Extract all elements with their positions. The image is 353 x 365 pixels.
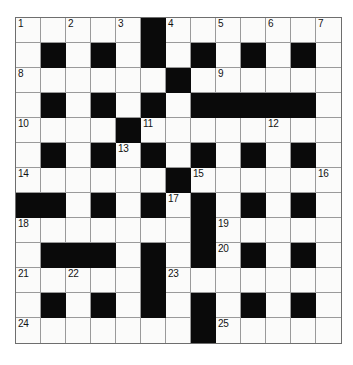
crossword-open-cell[interactable] bbox=[216, 118, 241, 143]
crossword-open-cell[interactable] bbox=[316, 243, 341, 268]
crossword-open-cell[interactable] bbox=[91, 18, 116, 43]
crossword-open-cell[interactable]: 20 bbox=[216, 243, 241, 268]
crossword-open-cell[interactable] bbox=[16, 293, 41, 318]
crossword-open-cell[interactable]: 18 bbox=[16, 218, 41, 243]
crossword-open-cell[interactable] bbox=[166, 218, 191, 243]
crossword-open-cell[interactable]: 4 bbox=[166, 18, 191, 43]
crossword-open-cell[interactable] bbox=[166, 143, 191, 168]
crossword-open-cell[interactable] bbox=[91, 68, 116, 93]
crossword-open-cell[interactable] bbox=[241, 318, 266, 343]
crossword-open-cell[interactable]: 11 bbox=[141, 118, 166, 143]
crossword-open-cell[interactable]: 25 bbox=[216, 318, 241, 343]
crossword-open-cell[interactable] bbox=[316, 293, 341, 318]
crossword-open-cell[interactable] bbox=[41, 268, 66, 293]
crossword-open-cell[interactable] bbox=[266, 243, 291, 268]
crossword-open-cell[interactable] bbox=[241, 168, 266, 193]
crossword-open-cell[interactable]: 8 bbox=[16, 68, 41, 93]
crossword-open-cell[interactable] bbox=[166, 93, 191, 118]
crossword-open-cell[interactable] bbox=[166, 293, 191, 318]
crossword-open-cell[interactable] bbox=[66, 168, 91, 193]
crossword-open-cell[interactable]: 15 bbox=[191, 168, 216, 193]
crossword-open-cell[interactable] bbox=[116, 218, 141, 243]
crossword-open-cell[interactable]: 12 bbox=[266, 118, 291, 143]
crossword-open-cell[interactable] bbox=[41, 118, 66, 143]
crossword-open-cell[interactable] bbox=[316, 318, 341, 343]
crossword-open-cell[interactable] bbox=[291, 18, 316, 43]
crossword-open-cell[interactable] bbox=[316, 143, 341, 168]
crossword-open-cell[interactable] bbox=[291, 268, 316, 293]
crossword-open-cell[interactable] bbox=[316, 68, 341, 93]
crossword-open-cell[interactable] bbox=[216, 43, 241, 68]
crossword-open-cell[interactable]: 1 bbox=[16, 18, 41, 43]
crossword-open-cell[interactable] bbox=[216, 293, 241, 318]
crossword-open-cell[interactable] bbox=[66, 93, 91, 118]
crossword-open-cell[interactable] bbox=[66, 68, 91, 93]
crossword-open-cell[interactable] bbox=[116, 43, 141, 68]
crossword-open-cell[interactable] bbox=[116, 93, 141, 118]
crossword-open-cell[interactable]: 19 bbox=[216, 218, 241, 243]
crossword-open-cell[interactable]: 3 bbox=[116, 18, 141, 43]
crossword-open-cell[interactable] bbox=[266, 293, 291, 318]
crossword-open-cell[interactable] bbox=[91, 318, 116, 343]
crossword-open-cell[interactable] bbox=[266, 68, 291, 93]
crossword-open-cell[interactable] bbox=[191, 68, 216, 93]
crossword-open-cell[interactable] bbox=[91, 118, 116, 143]
crossword-open-cell[interactable] bbox=[216, 193, 241, 218]
crossword-open-cell[interactable]: 16 bbox=[316, 168, 341, 193]
crossword-open-cell[interactable] bbox=[116, 193, 141, 218]
crossword-open-cell[interactable] bbox=[66, 193, 91, 218]
crossword-open-cell[interactable] bbox=[266, 143, 291, 168]
crossword-open-cell[interactable]: 7 bbox=[316, 18, 341, 43]
crossword-open-cell[interactable]: 14 bbox=[16, 168, 41, 193]
crossword-open-cell[interactable] bbox=[66, 143, 91, 168]
crossword-open-cell[interactable] bbox=[241, 118, 266, 143]
crossword-open-cell[interactable] bbox=[16, 43, 41, 68]
crossword-open-cell[interactable] bbox=[66, 318, 91, 343]
crossword-open-cell[interactable] bbox=[16, 93, 41, 118]
crossword-open-cell[interactable] bbox=[41, 18, 66, 43]
crossword-open-cell[interactable]: 6 bbox=[266, 18, 291, 43]
crossword-open-cell[interactable] bbox=[266, 43, 291, 68]
crossword-open-cell[interactable] bbox=[316, 93, 341, 118]
crossword-open-cell[interactable] bbox=[291, 318, 316, 343]
crossword-open-cell[interactable] bbox=[91, 268, 116, 293]
crossword-open-cell[interactable] bbox=[216, 168, 241, 193]
crossword-open-cell[interactable] bbox=[66, 293, 91, 318]
crossword-open-cell[interactable] bbox=[141, 168, 166, 193]
crossword-open-cell[interactable] bbox=[141, 318, 166, 343]
crossword-open-cell[interactable] bbox=[191, 18, 216, 43]
crossword-open-cell[interactable]: 24 bbox=[16, 318, 41, 343]
crossword-open-cell[interactable] bbox=[41, 318, 66, 343]
crossword-open-cell[interactable] bbox=[141, 218, 166, 243]
crossword-open-cell[interactable] bbox=[66, 118, 91, 143]
crossword-open-cell[interactable] bbox=[191, 118, 216, 143]
crossword-open-cell[interactable] bbox=[41, 168, 66, 193]
crossword-open-cell[interactable] bbox=[316, 268, 341, 293]
crossword-open-cell[interactable] bbox=[316, 193, 341, 218]
crossword-open-cell[interactable] bbox=[266, 168, 291, 193]
crossword-open-cell[interactable] bbox=[316, 118, 341, 143]
crossword-open-cell[interactable] bbox=[66, 218, 91, 243]
crossword-open-cell[interactable] bbox=[16, 143, 41, 168]
crossword-open-cell[interactable] bbox=[116, 168, 141, 193]
crossword-grid[interactable]: 1234567891011121314151617181920212223242… bbox=[15, 17, 342, 344]
crossword-open-cell[interactable] bbox=[266, 318, 291, 343]
crossword-open-cell[interactable]: 17 bbox=[166, 193, 191, 218]
crossword-open-cell[interactable] bbox=[116, 243, 141, 268]
crossword-open-cell[interactable] bbox=[241, 68, 266, 93]
crossword-open-cell[interactable] bbox=[41, 218, 66, 243]
crossword-open-cell[interactable] bbox=[241, 18, 266, 43]
crossword-open-cell[interactable]: 22 bbox=[66, 268, 91, 293]
crossword-open-cell[interactable] bbox=[266, 268, 291, 293]
crossword-open-cell[interactable] bbox=[291, 218, 316, 243]
crossword-open-cell[interactable] bbox=[316, 218, 341, 243]
crossword-open-cell[interactable] bbox=[216, 143, 241, 168]
crossword-open-cell[interactable]: 5 bbox=[216, 18, 241, 43]
crossword-open-cell[interactable] bbox=[91, 168, 116, 193]
crossword-open-cell[interactable] bbox=[116, 293, 141, 318]
crossword-open-cell[interactable] bbox=[191, 268, 216, 293]
crossword-open-cell[interactable]: 13 bbox=[116, 143, 141, 168]
crossword-open-cell[interactable] bbox=[116, 268, 141, 293]
crossword-open-cell[interactable] bbox=[291, 68, 316, 93]
crossword-open-cell[interactable] bbox=[41, 68, 66, 93]
